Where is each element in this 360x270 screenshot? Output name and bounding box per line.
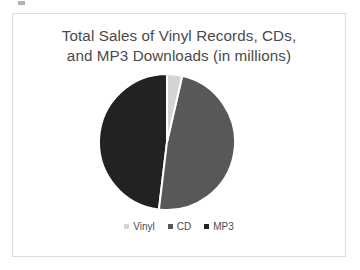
chart-legend: Vinyl CD MP3 xyxy=(13,221,345,232)
legend-label-vinyl: Vinyl xyxy=(133,221,155,232)
chart-frame: Total Sales of Vinyl Records, CDs, and M… xyxy=(12,13,346,257)
page-artifact-mark xyxy=(18,1,25,5)
legend-label-cd: CD xyxy=(177,221,191,232)
legend-item-vinyl[interactable]: Vinyl xyxy=(124,221,155,232)
legend-item-mp3[interactable]: MP3 xyxy=(204,221,234,232)
pie-chart xyxy=(97,72,237,212)
pie-slices xyxy=(99,74,235,210)
legend-swatch-icon-mp3 xyxy=(204,224,209,229)
legend-item-cd[interactable]: CD xyxy=(168,221,191,232)
legend-label-mp3: MP3 xyxy=(213,221,234,232)
pie-slice-mp3[interactable] xyxy=(99,74,167,210)
legend-swatch-icon-cd xyxy=(168,224,173,229)
legend-swatch-icon-vinyl xyxy=(124,224,129,229)
